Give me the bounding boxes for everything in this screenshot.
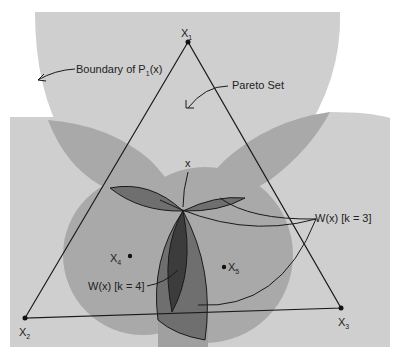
x4-marker (128, 254, 132, 258)
pareto-diagram: X1 X2 X3 x X4 X5 Boundary of P1(x) Paret… (0, 0, 396, 357)
boundary-label: Boundary of P1(x) (76, 63, 162, 77)
w-k4-label: W(x) [k = 4] (88, 280, 145, 292)
x3-marker (339, 306, 344, 311)
label-x: x (185, 157, 191, 169)
x5-marker (222, 265, 226, 269)
w-k3-label: W(x) [k = 3] (315, 212, 372, 224)
x2-marker (23, 316, 28, 321)
pareto-label: Pareto Set (232, 79, 284, 91)
